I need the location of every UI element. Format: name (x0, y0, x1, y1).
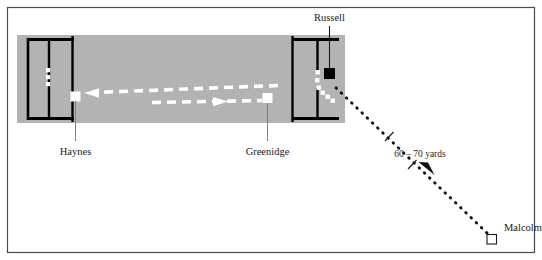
label-distance: 60 – 70 yards (394, 149, 446, 159)
player-marker-greenidge[interactable] (263, 94, 272, 103)
player-marker-haynes[interactable] (71, 92, 80, 101)
label-greenidge: Greenidge (246, 146, 290, 157)
player-marker-russell[interactable] (324, 68, 335, 79)
label-russell: Russell (314, 12, 345, 23)
left-ball-path-dots (46, 68, 50, 86)
label-haynes: Haynes (60, 146, 92, 157)
pitch-area (17, 35, 345, 123)
player-marker-malcolm[interactable] (487, 235, 497, 245)
label-malcolm: Malcolm (504, 222, 542, 233)
diagram-canvas: Russell Haynes Greenidge Malcolm 60 – 70… (0, 0, 542, 260)
